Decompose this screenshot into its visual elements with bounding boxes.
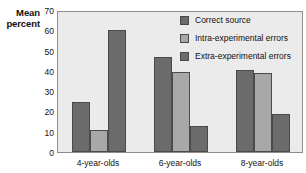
bar-chart-figure: Mean percent 010203040506070 4-year-olds… bbox=[0, 0, 306, 173]
bar bbox=[254, 73, 272, 152]
y-axis-tick-label: 10 bbox=[38, 128, 54, 137]
legend-swatch-icon bbox=[180, 16, 189, 25]
y-axis-tick-label: 60 bbox=[38, 27, 54, 36]
legend-item: Intra-experimental errors bbox=[180, 30, 304, 46]
y-axis-title: Mean percent bbox=[0, 7, 40, 29]
legend-label: Correct source bbox=[195, 15, 251, 25]
y-axis-tick-label: 20 bbox=[38, 108, 54, 117]
y-axis-tick-label: 70 bbox=[38, 7, 54, 16]
legend-swatch-icon bbox=[180, 52, 189, 61]
legend-swatch-icon bbox=[180, 34, 189, 43]
y-axis-tick-label: 30 bbox=[38, 88, 54, 97]
legend-item: Correct source bbox=[180, 12, 304, 28]
y-axis-tick-label: 40 bbox=[38, 67, 54, 76]
bar bbox=[72, 102, 90, 152]
bar bbox=[172, 72, 190, 152]
y-axis-title-line-1: Mean bbox=[0, 7, 40, 18]
bar bbox=[90, 130, 108, 152]
bar bbox=[154, 57, 172, 152]
x-axis-tick-label: 8-year-olds bbox=[241, 158, 284, 168]
x-axis-tick-label: 6-year-olds bbox=[159, 158, 202, 168]
bar bbox=[272, 114, 290, 152]
legend-label: Intra-experimental errors bbox=[195, 33, 288, 43]
chart-legend: Correct sourceIntra-experimental errorsE… bbox=[180, 12, 304, 66]
y-axis-tick-labels: 010203040506070 bbox=[38, 0, 54, 173]
legend-item: Extra-experimental errors bbox=[180, 48, 304, 64]
bar bbox=[108, 30, 126, 152]
legend-label: Extra-experimental errors bbox=[195, 51, 291, 61]
x-axis-tick-label: 4-year-olds bbox=[77, 158, 120, 168]
bar bbox=[236, 70, 254, 152]
y-axis-title-line-2: percent bbox=[0, 18, 40, 29]
y-axis-tick-label: 50 bbox=[38, 47, 54, 56]
bar bbox=[190, 126, 208, 152]
y-axis-tick-label: 0 bbox=[38, 149, 54, 158]
